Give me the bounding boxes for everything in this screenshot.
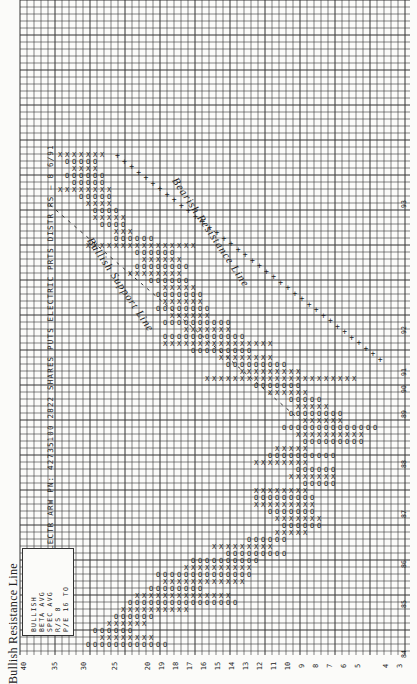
price-tick: 20 (144, 659, 152, 673)
svg-text:+: + (371, 349, 376, 358)
svg-text:O: O (107, 221, 111, 229)
svg-text:+: + (122, 157, 127, 166)
year-marker: 88 (400, 457, 408, 471)
price-tick: 4 (382, 659, 390, 673)
price-tick: 30 (80, 659, 88, 673)
svg-text:O: O (289, 424, 293, 432)
svg-text:+: + (229, 239, 234, 248)
svg-text:+: + (349, 333, 354, 342)
year-marker: 86 (400, 557, 408, 571)
svg-text:O: O (275, 536, 279, 544)
svg-text:O: O (331, 452, 335, 460)
price-tick: 14 (228, 659, 236, 673)
svg-text:+: + (300, 294, 305, 303)
legend-line: SPEC AVG (46, 591, 54, 632)
svg-text:O: O (324, 480, 328, 488)
svg-text:+: + (172, 195, 177, 204)
svg-text:+: + (257, 261, 262, 270)
svg-text:O: O (352, 438, 356, 446)
svg-text:O: O (331, 480, 335, 488)
year-marker: 92 (400, 323, 408, 337)
year-marker: 89 (400, 407, 408, 421)
svg-text:O: O (156, 305, 160, 313)
svg-text:O: O (373, 424, 377, 432)
price-tick: 7 (326, 659, 334, 673)
svg-text:O: O (163, 641, 167, 649)
svg-text:O: O (198, 347, 202, 355)
svg-text:O: O (135, 249, 139, 257)
svg-text:O: O (226, 361, 230, 369)
year-marker: 87 (400, 507, 408, 521)
svg-text:O: O (156, 291, 160, 299)
svg-text:O: O (100, 641, 104, 649)
price-tick: 17 (186, 659, 194, 673)
svg-text:O: O (198, 599, 202, 607)
svg-text:O: O (93, 641, 97, 649)
svg-text:O: O (226, 599, 230, 607)
svg-text:+: + (250, 256, 255, 265)
svg-text:+: + (271, 272, 276, 281)
svg-text:+: + (285, 283, 290, 292)
svg-text:O: O (65, 172, 69, 180)
svg-text:O: O (212, 347, 216, 355)
svg-text:O: O (149, 277, 153, 285)
svg-text:O: O (310, 452, 314, 460)
svg-text:O: O (317, 522, 321, 530)
svg-text:O: O (233, 599, 237, 607)
svg-text:+: + (314, 305, 319, 314)
price-tick: 11 (270, 659, 278, 673)
svg-text:O: O (65, 158, 69, 166)
svg-text:O: O (268, 508, 272, 516)
svg-text:O: O (212, 599, 216, 607)
svg-text:+: + (129, 162, 134, 171)
svg-text:O: O (205, 347, 209, 355)
price-tick: 35 (51, 659, 59, 673)
svg-text:O: O (163, 319, 167, 327)
svg-text:+: + (356, 338, 361, 347)
svg-text:O: O (156, 571, 160, 579)
svg-text:O: O (359, 438, 363, 446)
svg-text:+: + (136, 168, 141, 177)
svg-text:O: O (317, 438, 321, 446)
svg-text:O: O (324, 438, 328, 446)
svg-text:O: O (79, 193, 83, 201)
svg-text:O: O (191, 599, 195, 607)
svg-text:O: O (324, 452, 328, 460)
svg-text:+: + (243, 250, 248, 259)
svg-text:O: O (275, 550, 279, 558)
price-tick: 12 (256, 659, 264, 673)
legend-line: BULLISH (30, 596, 38, 632)
svg-text:O: O (177, 319, 181, 327)
svg-text:O: O (156, 641, 160, 649)
price-tick: 13 (242, 659, 250, 673)
svg-text:O: O (345, 438, 349, 446)
svg-text:+: + (278, 278, 283, 287)
year-marker: 84 (400, 647, 408, 661)
legend-line: R/S 8 (54, 606, 62, 632)
price-tick: 16 (200, 659, 208, 673)
price-tick: 25 (111, 659, 119, 673)
svg-text:O: O (191, 347, 195, 355)
svg-text:O: O (149, 613, 153, 621)
price-tick: 9 (298, 659, 306, 673)
svg-text:+: + (115, 151, 120, 160)
svg-text:O: O (366, 424, 370, 432)
svg-text:O: O (100, 221, 104, 229)
svg-text:+: + (364, 344, 369, 353)
year-marker: 85 (400, 597, 408, 611)
svg-text:O: O (149, 641, 153, 649)
price-tick: 3 (396, 659, 404, 673)
svg-text:O: O (317, 480, 321, 488)
svg-text:+: + (342, 327, 347, 336)
svg-text:+: + (236, 245, 241, 254)
legend-line: BETA AVG (38, 591, 46, 632)
svg-text:+: + (307, 300, 312, 309)
svg-text:O: O (289, 396, 293, 404)
svg-text:O: O (219, 599, 223, 607)
svg-text:O: O (254, 557, 258, 565)
svg-text:+: + (378, 355, 383, 364)
legend-line: P/E 16 TO (62, 586, 70, 632)
svg-text:O: O (317, 452, 321, 460)
svg-text:+: + (143, 173, 148, 182)
price-tick: 18 (172, 659, 180, 673)
